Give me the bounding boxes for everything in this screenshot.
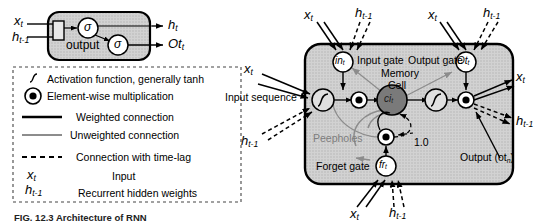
legend-symbol-h-label: ht-1	[25, 183, 42, 197]
forget-gate-text: Forget gate	[316, 161, 370, 172]
legend-element-wise-multiplication-text: Element-wise multiplication	[47, 91, 174, 102]
rnn-output-inner-label: output	[66, 39, 99, 51]
input-sequence-text: Input sequence	[225, 92, 297, 103]
output-gate-h-label: ht-1	[483, 6, 500, 20]
lstm-left-input-x-label: xt	[244, 62, 253, 76]
output-text: Output (otn)	[460, 152, 514, 164]
input-gate-text: Input gate	[357, 55, 404, 66]
lstm-output-x-label: xt	[516, 70, 525, 84]
output-gate-text: Output gate	[408, 55, 463, 66]
memory-cell-text-line1: Memory	[381, 68, 419, 79]
carousel-weight-label: 1.0	[414, 137, 429, 148]
output-gate-x-label: xt	[428, 8, 437, 22]
legend-symbol-x-label: xt	[27, 168, 36, 182]
input-gate-x-label: xt	[304, 8, 313, 22]
legend-input-text: Input	[112, 171, 135, 182]
rnn-output-h-label: ht	[168, 18, 178, 32]
memory-cell-node-label: cit	[384, 94, 393, 105]
rnn-input-h-label: ht-1	[12, 30, 29, 44]
memory-cell-text-line2: Cell	[388, 80, 406, 91]
lstm-rnn-architecture-figure: xt ht-1 σ σ output ht Ott Activation fun…	[0, 0, 546, 223]
forget-gate-x-label: xt	[350, 207, 359, 221]
figure-caption: FIG. 12.3 Architecture of RNN	[14, 213, 147, 223]
legend-time-lag-connection-text: Connection with time-lag	[76, 152, 191, 163]
input-gate-h-label: ht-1	[355, 6, 372, 20]
legend-unweighted-connection-text: Unweighted connection	[70, 130, 179, 141]
rnn-output-ot-label: Ott	[168, 37, 184, 51]
rnn-sigma2-label: σ	[114, 38, 121, 50]
rnn-cell-group	[27, 12, 163, 60]
legend-recurrent-hidden-weights-text: Recurrent hidden weights	[78, 188, 197, 199]
forget-gate-h-label: ht-1	[389, 206, 406, 220]
forget-gate-node-label: frt	[379, 160, 387, 171]
lstm-output-h-label: ht-1	[516, 114, 533, 128]
lstm-left-input-h-label: ht-1	[241, 134, 258, 148]
legend-activation-function-text: Activation function, generally tanh	[47, 74, 204, 85]
input-gate-node-label: int	[335, 56, 345, 67]
peepholes-text: Peepholes	[313, 133, 363, 144]
rnn-input-x-label: xt	[14, 14, 23, 28]
rnn-sigma1-label: σ	[84, 21, 91, 33]
legend-weighted-connection-text: Weighted connection	[76, 112, 174, 123]
